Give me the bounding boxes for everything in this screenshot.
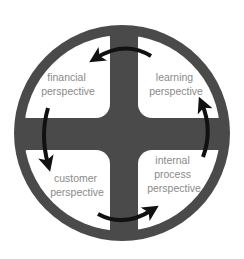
scorecard-wheel-diagram: financial perspective learning perspecti… <box>0 0 244 259</box>
wheel-disc <box>14 25 230 241</box>
